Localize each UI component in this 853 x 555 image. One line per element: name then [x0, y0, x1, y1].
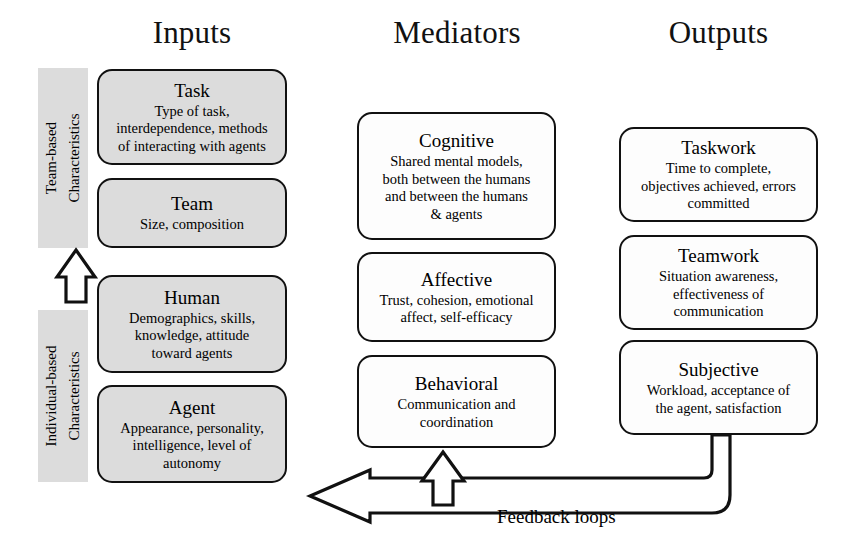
side-label-individual-based: Individual-based Characteristics	[38, 310, 88, 482]
figure-canvas: Inputs Mediators Outputs Team-based Char…	[0, 0, 853, 555]
column-header-inputs: Inputs	[97, 14, 287, 52]
side-label-individual-based-line1: Individual-based	[40, 346, 63, 447]
input-box-task-title: Task	[174, 79, 210, 102]
mediator-box-behavioral-desc-1: coordination	[418, 414, 495, 432]
input-box-team-desc-0: Size, composition	[138, 216, 246, 234]
output-box-teamwork-title: Teamwork	[678, 244, 759, 267]
output-box-subjective-title: Subjective	[678, 358, 758, 381]
output-box-subjective-desc-0: Workload, acceptance of	[645, 382, 792, 400]
input-box-agent-desc-2: autonomy	[161, 455, 223, 473]
mediator-box-affective-title: Affective	[421, 268, 492, 291]
mediator-box-affective-desc-1: affect, self-efficacy	[398, 309, 514, 327]
output-box-teamwork: Teamwork Situation awareness, effectiven…	[619, 235, 818, 330]
output-box-teamwork-desc-1: effectiveness of	[671, 286, 766, 304]
input-box-agent-title: Agent	[169, 396, 215, 419]
input-box-human: Human Demographics, skills, knowledge, a…	[97, 275, 287, 373]
output-box-subjective: Subjective Workload, acceptance of the a…	[619, 340, 818, 435]
input-box-human-desc-1: knowledge, attitude	[133, 327, 251, 345]
mediator-box-cognitive-desc-2: and between the humans	[383, 188, 530, 206]
input-box-task-desc-1: interdependence, methods	[114, 120, 269, 138]
mediator-box-behavioral-title: Behavioral	[415, 372, 498, 395]
up-arrow-characteristics	[57, 250, 95, 302]
side-label-team-based-line1: Team-based	[40, 113, 63, 202]
mediator-box-behavioral: Behavioral Communication and coordinatio…	[357, 355, 556, 448]
output-box-taskwork-desc-1: objectives achieved, errors	[639, 178, 798, 196]
mediator-box-cognitive-desc-0: Shared mental models,	[388, 153, 524, 171]
side-label-team-based: Team-based Characteristics	[38, 68, 88, 248]
column-header-outputs: Outputs	[619, 14, 818, 52]
input-box-task: Task Type of task, interdependence, meth…	[97, 69, 287, 165]
column-header-mediators: Mediators	[357, 14, 557, 52]
output-box-taskwork-desc-2: committed	[685, 195, 751, 213]
feedback-branch-up-arrow	[422, 452, 464, 505]
output-box-taskwork-desc-0: Time to complete,	[664, 160, 773, 178]
output-box-teamwork-desc-0: Situation awareness,	[657, 268, 780, 286]
mediator-box-affective-desc-0: Trust, cohesion, emotional	[377, 292, 535, 310]
input-box-agent-desc-0: Appearance, personality,	[118, 420, 266, 438]
side-label-individual-based-line2: Characteristics	[63, 346, 86, 447]
input-box-human-desc-2: toward agents	[150, 345, 235, 363]
input-box-team: Team Size, composition	[97, 178, 287, 248]
input-box-agent-desc-1: intelligence, level of	[131, 437, 254, 455]
mediator-box-cognitive-desc-1: both between the humans	[381, 171, 533, 189]
output-box-taskwork: Taskwork Time to complete, objectives ac…	[619, 127, 818, 222]
input-box-task-desc-0: Type of task,	[152, 103, 231, 121]
mediator-box-behavioral-desc-0: Communication and	[396, 396, 518, 414]
input-box-task-desc-2: of interacting with agents	[116, 138, 268, 156]
input-box-agent: Agent Appearance, personality, intellige…	[97, 385, 287, 483]
input-box-human-title: Human	[164, 286, 220, 309]
input-box-team-title: Team	[171, 192, 213, 215]
output-box-teamwork-desc-2: communication	[671, 303, 765, 321]
mediator-box-cognitive-desc-3: & agents	[429, 206, 485, 224]
input-box-human-desc-0: Demographics, skills,	[127, 310, 257, 328]
mediator-box-cognitive: Cognitive Shared mental models, both bet…	[357, 112, 556, 240]
output-box-taskwork-title: Taskwork	[681, 136, 756, 159]
side-label-team-based-line2: Characteristics	[63, 113, 86, 202]
output-box-subjective-desc-1: the agent, satisfaction	[653, 400, 783, 418]
mediator-box-affective: Affective Trust, cohesion, emotional aff…	[357, 252, 556, 342]
mediator-box-cognitive-title: Cognitive	[419, 129, 494, 152]
feedback-loops-label: Feedback loops	[497, 505, 616, 528]
